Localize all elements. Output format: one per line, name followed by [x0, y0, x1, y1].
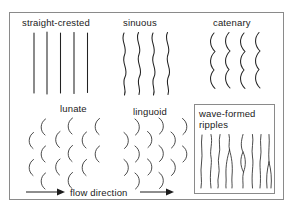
- panel-sinuous: [123, 33, 170, 96]
- flow-direction-indicator: flow direction: [26, 187, 174, 198]
- panel-label-lunate: lunate: [60, 103, 87, 114]
- panel-linguoid: [124, 118, 187, 189]
- panel-wave-formed-ripples: wave-formed ripples: [195, 105, 275, 194]
- flow-arrow-right-head: [166, 189, 174, 196]
- panel-label-wave-formed-ripples-line1: wave-formed: [198, 108, 256, 119]
- panel-straight-crested: [34, 32, 88, 94]
- panel-label-straight-crested: straight-crested: [22, 17, 90, 28]
- flow-arrow-left-head: [57, 189, 65, 196]
- panel-label-catenary: catenary: [213, 17, 251, 28]
- panel-lunate: [29, 118, 99, 189]
- bedform-classification-figure: straight-crested sinuous catenary lunate…: [0, 0, 293, 212]
- panel-label-linguoid: linguoid: [133, 106, 167, 117]
- panel-catenary: [211, 33, 260, 89]
- panel-label-wave-formed-ripples-line2: ripples: [199, 119, 228, 130]
- figure-canvas: straight-crested sinuous catenary lunate…: [0, 0, 293, 212]
- panel-label-sinuous: sinuous: [123, 17, 157, 28]
- flow-direction-label: flow direction: [70, 187, 128, 198]
